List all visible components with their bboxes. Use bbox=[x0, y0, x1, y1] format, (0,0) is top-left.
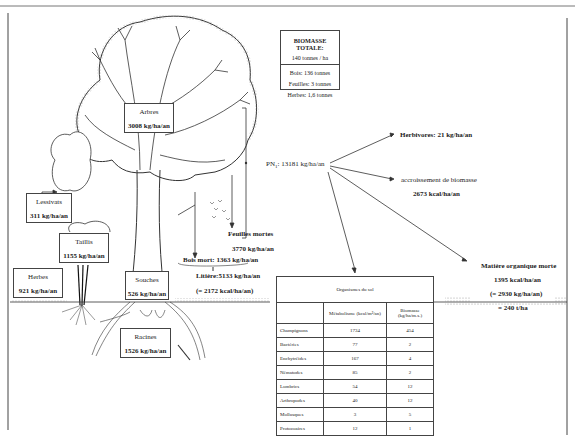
table-row: Arthropodes4012 bbox=[277, 394, 434, 408]
biomass-total-box: BIOMASSE TOTALE: 140 tonnes / ha Bois: 1… bbox=[280, 30, 340, 90]
matiere-organique-title: Matière organique morte bbox=[481, 262, 556, 270]
organism-biomasse: 1 bbox=[387, 422, 434, 436]
organism-metabolisme: 1734 bbox=[324, 324, 387, 338]
matiere-organique-tha: = 240 t/ha bbox=[498, 304, 528, 312]
feuilles-mortes-value: 3770 kg/ha/an bbox=[232, 245, 274, 253]
litiere-energy: (= 2172 kcal/ha/an) bbox=[196, 287, 253, 295]
organism-name: Champignons bbox=[277, 324, 324, 338]
biomass-total-title: BIOMASSE TOTALE: bbox=[281, 31, 339, 55]
organism-biomasse: 2 bbox=[387, 338, 434, 352]
organism-name: Protozoaires bbox=[277, 422, 324, 436]
table-row: Enchytréides1674 bbox=[277, 352, 434, 366]
biomass-feuilles: Feuilles: 3 tonnes bbox=[281, 76, 339, 87]
organism-name: Arthropodes bbox=[277, 394, 324, 408]
table-row: Nématodes852 bbox=[277, 366, 434, 380]
racines-box: Racines 1526 kg/ha/an bbox=[120, 328, 171, 358]
organism-name: Nématodes bbox=[277, 366, 324, 380]
organism-biomasse: 4 bbox=[387, 352, 434, 366]
table-row: Protozoaires121 bbox=[277, 422, 434, 436]
lessivats-label: Lessivats bbox=[27, 194, 71, 206]
organism-metabolisme: 54 bbox=[324, 380, 387, 394]
biomass-herbes: Herbes: 1,6 tonnes bbox=[281, 87, 339, 98]
biomass-total-value: 140 tonnes / ha bbox=[281, 55, 339, 65]
table-row: Champignons1734454 bbox=[277, 324, 434, 338]
organism-metabolisme: 85 bbox=[324, 366, 387, 380]
organism-metabolisme: 167 bbox=[324, 352, 387, 366]
litiere-label: Litière:5133 kg/ha/an bbox=[196, 272, 260, 280]
taillis-box: Taillis 1155 kg/ha/an bbox=[59, 233, 109, 263]
diagram-canvas: BIOMASSE TOTALE: 140 tonnes / ha Bois: 1… bbox=[0, 0, 575, 440]
taillis-value: 1155 kg/ha/an bbox=[60, 246, 108, 260]
herbes-label: Herbes bbox=[14, 269, 62, 281]
organism-name: Bactéries bbox=[277, 338, 324, 352]
accroissement-label: accroissement de biomasse bbox=[401, 176, 477, 184]
table-row: Lombrics5412 bbox=[277, 380, 434, 394]
accroissement-value: 2673 kcal/ha/an bbox=[413, 190, 460, 198]
souches-value: 526 kg/ha/an bbox=[126, 284, 168, 298]
pn-value: : 13181 kg/ha/an bbox=[277, 160, 324, 168]
herbes-value: 921 kg/ha/an bbox=[14, 281, 62, 295]
soil-table-header-name bbox=[277, 303, 324, 324]
racines-value: 1526 kg/ha/an bbox=[121, 341, 170, 355]
arbres-label: Arbres bbox=[125, 104, 173, 116]
table-row: Bactéries772 bbox=[277, 338, 434, 352]
pn-text: PN bbox=[266, 160, 275, 168]
soil-table-header-biomasse: Biomasse (kg/ha/m.s.) bbox=[387, 303, 434, 324]
organism-biomasse: 5 bbox=[387, 408, 434, 422]
organism-metabolisme: 40 bbox=[324, 394, 387, 408]
feuilles-mortes-label: Feuilles mortes bbox=[228, 230, 273, 238]
lessivats-box: Lessivats 311 kg/ha/an bbox=[26, 193, 72, 223]
soil-table-header-metabolisme: Métabolisme (kcal/m²/an) bbox=[324, 303, 387, 324]
bois-mort-label: Bois mort: 1363 kg/ha/an bbox=[183, 256, 258, 264]
lessivats-value: 311 kg/ha/an bbox=[27, 206, 71, 220]
herbes-box: Herbes 921 kg/ha/an bbox=[13, 268, 63, 298]
organism-biomasse: 454 bbox=[387, 324, 434, 338]
organism-biomasse: 12 bbox=[387, 380, 434, 394]
organism-metabolisme: 12 bbox=[324, 422, 387, 436]
soil-table-title: Organismes du sol bbox=[277, 277, 434, 303]
arbres-value: 3008 kg/ha/an bbox=[125, 116, 173, 130]
organism-biomasse: 12 bbox=[387, 394, 434, 408]
organism-biomasse: 2 bbox=[387, 366, 434, 380]
matiere-organique-kcal: 1395 kcal/ha/an bbox=[494, 276, 541, 284]
organism-metabolisme: 3 bbox=[324, 408, 387, 422]
table-row: Mollusques35 bbox=[277, 408, 434, 422]
racines-label: Racines bbox=[121, 329, 170, 341]
soil-organisms-table: Organismes du sol Métabolisme (kcal/m²/a… bbox=[276, 276, 434, 436]
herbivores-label: Herbivores: 21 kg/ha/an bbox=[400, 131, 472, 139]
biomass-bois: Bois: 136 tonnes bbox=[281, 65, 339, 76]
organism-metabolisme: 77 bbox=[324, 338, 387, 352]
souches-label: Souches bbox=[126, 272, 168, 284]
matiere-organique-kg: (= 2930 kg/ha/an) bbox=[490, 290, 542, 298]
pn1-label: PN1: 13181 kg/ha/an bbox=[266, 160, 325, 169]
organism-name: Lombrics bbox=[277, 380, 324, 394]
taillis-label: Taillis bbox=[60, 234, 108, 246]
souches-box: Souches 526 kg/ha/an bbox=[125, 271, 169, 300]
organism-name: Enchytréides bbox=[277, 352, 324, 366]
arbres-box: Arbres 3008 kg/ha/an bbox=[124, 103, 174, 133]
organism-name: Mollusques bbox=[277, 408, 324, 422]
